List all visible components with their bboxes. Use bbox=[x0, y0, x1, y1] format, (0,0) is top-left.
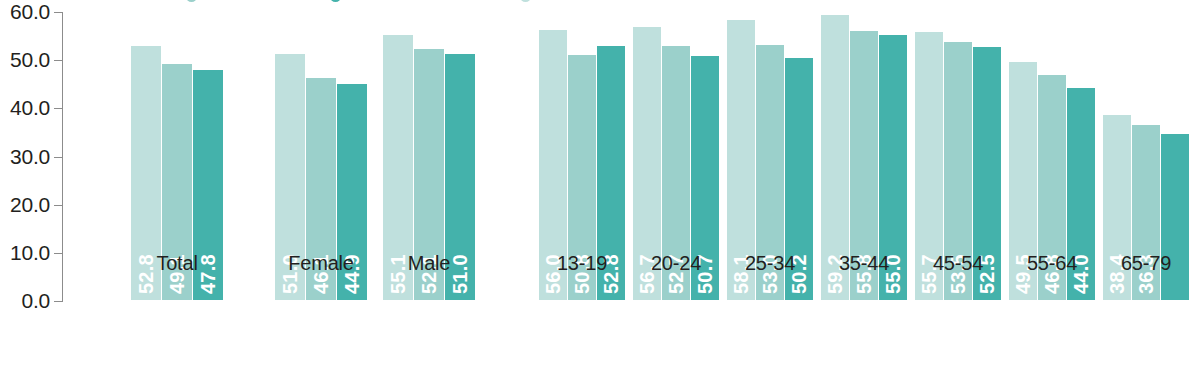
bar-group: 52.849.147.8Total bbox=[131, 11, 223, 300]
bar-chart: 0.010.020.030.040.050.060.0 52.849.147.8… bbox=[0, 0, 1193, 367]
bar-group: 38.436.365-79 bbox=[1103, 11, 1189, 300]
x-axis-group-label: Total bbox=[101, 252, 253, 274]
plot-area: 52.849.147.8Total51.046.144.9Female55.15… bbox=[0, 0, 1193, 367]
bar bbox=[1161, 134, 1189, 300]
x-axis-group-label: 65-79 bbox=[1073, 252, 1193, 274]
x-axis-group-label: Male bbox=[353, 252, 505, 274]
bar-group: 55.152.151.0Male bbox=[383, 11, 475, 300]
